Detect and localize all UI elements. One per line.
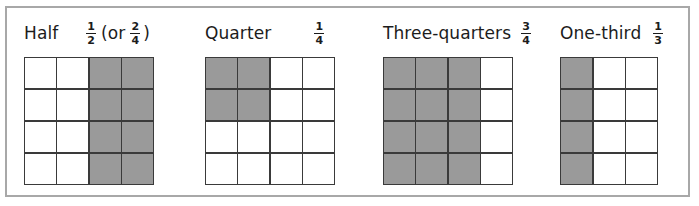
fraction-denominator: 4 [130,33,140,46]
grid-cell [594,154,625,184]
fraction-denominator: 4 [521,33,531,46]
fraction-numerator: 3 [521,21,531,33]
fraction-connector-open: (or [101,23,125,43]
grid-cell [481,58,512,88]
caption-quarter: Quarter 1 4 [205,18,324,48]
grid-cell-shaded [238,90,269,120]
grid-three-quarters [383,57,513,185]
fraction-diagram-figure: Half 1 2 (or 2 4 ) [0,0,699,206]
grid-cell-shaded [416,90,447,120]
grid-cell [206,122,237,152]
grid-cell-shaded [90,122,121,152]
panel-label-quarter: Quarter [205,23,271,43]
grid-cell [238,154,269,184]
grid-cell [25,122,56,152]
fraction-denominator: 3 [653,33,663,46]
grid-cell [25,58,56,88]
grid-cell [481,154,512,184]
grid-cell [206,154,237,184]
grid-cell-shaded [122,58,153,88]
grid-cell [57,90,88,120]
grid-cell-shaded [238,58,269,88]
grid-cell [303,90,334,120]
grid-cell [271,58,302,88]
caption-half: Half 1 2 (or 2 4 ) [24,18,150,48]
grid-cell [303,122,334,152]
caption-three-quarters: Three-quarters 3 4 [383,18,531,48]
grid-cell [57,154,88,184]
grid-cell [25,154,56,184]
grid-cell [57,122,88,152]
grid-cell [481,90,512,120]
grid-cell [594,90,625,120]
grid-cell-shaded [561,154,592,184]
grid-cell-shaded [561,90,592,120]
panels-container: Half 1 2 (or 2 4 ) [0,0,699,206]
grid-cell-shaded [416,58,447,88]
grid-cell-shaded [449,122,480,152]
grid-cell-shaded [384,58,415,88]
grid-cell-shaded [122,122,153,152]
grid-cell [25,90,56,120]
grid-cell-shaded [90,154,121,184]
fraction-numerator: 1 [314,21,324,33]
grid-cell-shaded [384,90,415,120]
grid-cell [57,58,88,88]
fraction-numerator: 1 [86,21,96,33]
grid-cell [481,122,512,152]
grid-half [24,57,154,185]
grid-quarter [205,57,335,185]
panel-label-one-third: One-third [560,23,641,43]
grid-cell-shaded [449,58,480,88]
grid-cell-shaded [122,90,153,120]
grid-cell-shaded [416,122,447,152]
fraction-one-half: 1 2 [86,21,96,46]
grid-cell [303,58,334,88]
fraction-two-quarters: 2 4 [130,21,140,46]
grid-cell-shaded [90,58,121,88]
grid-cell-shaded [206,58,237,88]
grid-cell [238,122,269,152]
grid-cell [271,122,302,152]
grid-cell [271,90,302,120]
fraction-one-quarter: 1 4 [314,21,324,46]
grid-cell-shaded [449,154,480,184]
grid-cell-shaded [384,154,415,184]
grid-cell-shaded [384,122,415,152]
grid-cell [594,122,625,152]
panel-label-half: Half [24,23,58,43]
panel-label-three-quarters: Three-quarters [383,23,511,43]
grid-cell [594,58,625,88]
grid-one-third [560,57,658,185]
grid-cell [303,154,334,184]
grid-cell-shaded [561,122,592,152]
fraction-denominator: 2 [86,33,96,46]
fraction-numerator: 2 [130,21,140,33]
grid-cell-shaded [90,90,121,120]
grid-cell-shaded [416,154,447,184]
grid-cell-shaded [206,90,237,120]
fraction-numerator: 1 [653,21,663,33]
grid-cell [626,58,657,88]
grid-cell [626,122,657,152]
fraction-three-quarters: 3 4 [521,21,531,46]
grid-cell-shaded [122,154,153,184]
grid-cell [626,90,657,120]
grid-cell [271,154,302,184]
fraction-connector-close: ) [143,23,150,43]
fraction-denominator: 4 [314,33,324,46]
grid-cell [626,154,657,184]
caption-one-third: One-third 1 3 [560,18,663,48]
grid-cell-shaded [449,90,480,120]
grid-cell-shaded [561,58,592,88]
fraction-one-third: 1 3 [653,21,663,46]
